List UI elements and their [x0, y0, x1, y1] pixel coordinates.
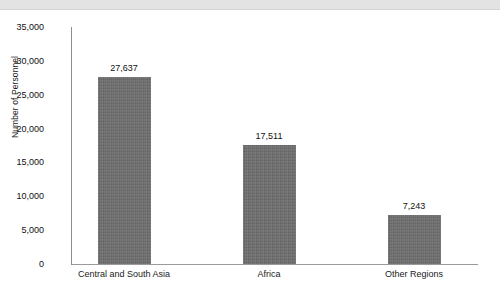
bar-chart-figure: Number of Personnel 05,00010,00015,00020… [0, 0, 500, 301]
bar-value-label: 17,511 [219, 131, 319, 141]
y-axis-tick-label: 10,000 [0, 191, 44, 201]
bar[interactable] [98, 77, 151, 264]
bar-value-label: 7,243 [364, 201, 464, 211]
y-axis-tick-label: 25,000 [0, 90, 44, 100]
x-axis-line [72, 264, 478, 265]
page-header-band [0, 0, 500, 9]
bar-value-label: 27,637 [74, 63, 174, 73]
y-axis-tick-label: 30,000 [0, 56, 44, 66]
bar[interactable] [243, 145, 296, 264]
y-axis-tick-label: 35,000 [0, 22, 44, 32]
bar[interactable] [388, 215, 441, 264]
x-axis-category-label: Other Regions [334, 269, 494, 279]
y-axis-tick-label: 20,000 [0, 124, 44, 134]
x-axis-category-label: Central and South Asia [44, 269, 204, 279]
plot-area: 05,00010,00015,00020,00025,00030,00035,0… [72, 27, 478, 264]
y-axis-tick-label: 15,000 [0, 157, 44, 167]
page-header-band-edge [0, 9, 500, 10]
y-axis-tick-label: 5,000 [0, 225, 44, 235]
y-axis-tick-label: 0 [0, 259, 44, 269]
x-axis-category-label: Africa [189, 269, 349, 279]
